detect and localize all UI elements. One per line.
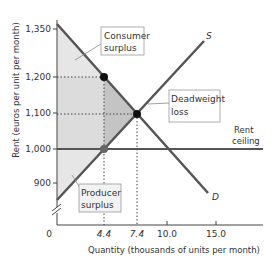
x-tick-4-4: 4.4: [97, 229, 112, 239]
deadweight-loss-region: [104, 77, 137, 149]
rent-ceiling-chart: Consumer surplus Deadweight loss Produce…: [0, 0, 278, 266]
x-tick-labels: 0 4.4 7.4 10.0 15.0: [46, 229, 226, 239]
marker-equilibrium: [133, 110, 141, 118]
x-tick-origin: 0: [46, 229, 52, 239]
producer-surplus-label-2: surplus: [81, 200, 114, 210]
marker-ceiling: [100, 145, 108, 153]
deadweight-loss-label-2: loss: [171, 107, 189, 117]
chart-svg: Consumer surplus Deadweight loss Produce…: [0, 0, 278, 266]
x-tick-10: 10.0: [157, 229, 177, 239]
deadweight-loss-label-1: Deadweight: [171, 94, 226, 104]
marker-1200: [100, 73, 108, 81]
y-tick-1200: 1,200: [25, 72, 51, 82]
y-tick-1100: 1,100: [25, 108, 51, 118]
x-tick-7-4: 7.4: [130, 229, 145, 239]
y-tick-1000: 1,000: [25, 144, 51, 154]
transfer-region: [57, 77, 104, 149]
x-axis-title: Quantity (thousands of units per month): [88, 245, 260, 255]
x-ticks: [167, 221, 216, 225]
producer-surplus-label-1: Producer: [81, 188, 121, 198]
demand-label: D: [212, 192, 219, 202]
y-tick-labels: 1,350 1,200 1,100 1,000 900: [25, 24, 51, 188]
consumer-surplus-label-2: surplus: [104, 43, 137, 53]
y-axis-title: Rent (euros per unit per month): [11, 22, 21, 157]
rent-ceiling-label-1: Rent: [234, 125, 254, 135]
y-tick-900: 900: [34, 178, 51, 188]
consumer-surplus-label-1: Consumer: [104, 31, 150, 41]
y-ticks: [53, 29, 57, 183]
supply-label: S: [206, 31, 212, 41]
x-tick-15: 15.0: [206, 229, 226, 239]
y-tick-1350: 1,350: [25, 24, 51, 34]
rent-ceiling-label-2: ceiling: [232, 136, 260, 146]
